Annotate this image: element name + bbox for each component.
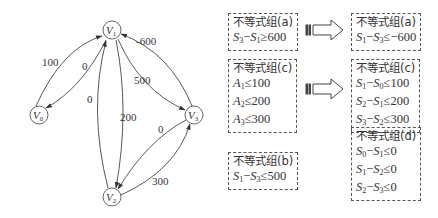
group-a-transformed: 不等式组(a)S1−S3≤−600 — [351, 13, 421, 51]
weight-v1-v3: 500 — [134, 74, 151, 86]
group-title: 不等式组(b) — [233, 154, 293, 169]
group-title: 不等式组(a) — [233, 15, 293, 30]
weight-v1-v0: 0 — [82, 60, 88, 72]
weight-v3-v1: -600 — [136, 35, 157, 47]
group-title: 不等式组(d) — [356, 129, 416, 144]
transform-arrow-a-icon — [305, 18, 345, 42]
group-c-transformed: 不等式组(c)S1−S0≤100S2−S1≤200S3−S2≤300 — [351, 59, 420, 133]
inequality-line: S0−S1≤0 — [356, 144, 416, 162]
inequality-line: S2−S1≤200 — [356, 94, 415, 112]
group-b: 不等式组(b)S1−S3≤500 — [228, 152, 298, 190]
weight-v2-v1: 0 — [87, 93, 93, 105]
group-c-original: 不等式组(c)A1≤100A2≤200A3≤300 — [228, 59, 297, 133]
weight-v0-v1: 100 — [42, 56, 59, 68]
group-a-original: 不等式组(a)S3−S1≥600 — [228, 13, 298, 51]
inequality-line: A1≤100 — [233, 76, 292, 94]
edge-v3-v1 — [121, 34, 192, 106]
group-title: 不等式组(c) — [356, 61, 415, 76]
inequality-line: S1−S2≤0 — [356, 162, 416, 180]
inequality-line: S2−S3≤0 — [356, 180, 416, 198]
inequality-line: S3−S1≥600 — [233, 30, 293, 48]
constraint-graph: 100 0 0 200 500 -600 0 300 V0 V1 V2 V3 — [0, 0, 220, 218]
inequality-line: S1−S3≤−600 — [356, 30, 416, 48]
inequality-line: S1−S0≤100 — [356, 76, 415, 94]
edge-v2-v1 — [97, 41, 108, 188]
group-title: 不等式组(c) — [233, 61, 292, 76]
transform-arrow-c-icon — [305, 77, 345, 101]
inequality-line: S1−S3≤500 — [233, 169, 293, 187]
weight-v1-v2: 200 — [120, 111, 137, 123]
group-d: 不等式组(d)S0−S1≤0S1−S2≤0S2−S3≤0 — [351, 127, 421, 201]
inequality-line: A2≤200 — [233, 94, 292, 112]
group-title: 不等式组(a) — [356, 15, 416, 30]
inequality-line: A3≤300 — [233, 112, 292, 130]
weight-v2-v3: 300 — [152, 175, 169, 187]
weight-v3-v2: 0 — [158, 123, 164, 135]
